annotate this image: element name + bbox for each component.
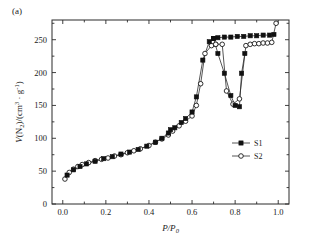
legend-label: S1	[254, 139, 262, 148]
s1-data-point	[233, 103, 237, 107]
y-tick-label: 250	[34, 35, 47, 45]
s1-data-point	[160, 136, 164, 140]
legend-label: S2	[254, 152, 262, 161]
s1-data-point	[127, 150, 131, 154]
y-tick-label: 150	[34, 100, 47, 110]
axis-ticks	[52, 20, 289, 204]
s2-data-point	[203, 51, 208, 56]
s2-data-point	[274, 21, 279, 26]
x-tick-label: 0.0	[57, 207, 68, 217]
s1-data-point	[194, 95, 198, 99]
s1-data-point	[211, 36, 215, 40]
s1-data-point	[201, 58, 205, 62]
s1-data-point	[207, 40, 211, 44]
isotherm-chart: 0.00.20.40.60.81.0050100150200250 P/P0V(…	[0, 0, 317, 241]
x-tick-label: 0.8	[230, 207, 241, 217]
s2-data-point	[248, 42, 253, 47]
s1-data-point	[65, 173, 69, 177]
s2-data-point	[132, 148, 137, 153]
s1-data-point	[71, 168, 75, 172]
plot-frame	[52, 20, 289, 204]
s1-data-point	[255, 34, 259, 38]
s1-data-point	[235, 34, 239, 38]
s1-data-point	[229, 93, 233, 97]
s1-data-point	[242, 34, 246, 38]
s1-data-point	[240, 71, 244, 75]
s1-data-point	[84, 162, 88, 166]
s2-data-point	[265, 41, 270, 46]
data-series	[63, 21, 279, 181]
s1-data-point	[173, 126, 177, 130]
s1-data-point	[168, 128, 172, 132]
s1-data-point	[261, 33, 265, 37]
s1-data-point	[216, 51, 220, 55]
x-tick-label: 0.6	[187, 207, 198, 217]
s1-data-point	[145, 144, 149, 148]
s2-data-point	[224, 89, 229, 94]
y-axis-title: V(N2)/(cm3 · g-1)	[13, 81, 25, 142]
y-tick-label: 50	[39, 166, 48, 176]
s2-data-point	[106, 156, 111, 161]
s1-data-point	[268, 33, 272, 37]
s2-data-point	[269, 40, 274, 45]
plot-border	[52, 20, 289, 204]
y-tick-label: 100	[34, 133, 47, 143]
x-tick-label: 1.0	[273, 207, 284, 217]
s1-data-point	[248, 34, 252, 38]
s1-data-point	[190, 110, 194, 114]
s1-data-point	[153, 140, 157, 144]
x-axis-title: P/P0	[161, 223, 180, 234]
s1-data-point	[183, 116, 187, 120]
s1-data-point	[119, 152, 123, 156]
s1-adsorption-line	[67, 38, 214, 175]
s1-data-point	[237, 105, 241, 109]
s1-data-point	[102, 157, 106, 161]
figure-panel: (a) 0.00.20.40.60.81.0050100150200250 P/…	[0, 0, 317, 241]
s2-data-point	[220, 42, 225, 47]
axis-tick-labels: 0.00.20.40.60.81.0050100150200250	[34, 35, 283, 217]
s1-data-point	[179, 120, 183, 124]
legend-entry-s1: S1	[232, 139, 262, 148]
s1-data-point	[78, 164, 82, 168]
s1-data-point	[222, 71, 226, 75]
y-tick-label: 0	[43, 199, 47, 209]
s2-data-point	[198, 81, 203, 86]
chart-legend: S1S2	[232, 139, 262, 161]
s2-data-point	[213, 42, 218, 47]
s1-data-point	[229, 35, 233, 39]
s1-data-point	[216, 36, 220, 40]
s1-data-point	[222, 35, 226, 39]
s1-data-point	[272, 32, 276, 36]
x-tick-label: 0.4	[144, 207, 155, 217]
s1-data-point	[243, 51, 247, 55]
s2-data-point	[194, 103, 199, 108]
legend-marker-open-circle	[239, 154, 244, 159]
s1-data-point	[93, 159, 97, 163]
legend-entry-s2: S2	[232, 152, 262, 161]
x-tick-label: 0.2	[101, 207, 112, 217]
y-tick-label: 200	[34, 68, 47, 78]
s1-data-point	[136, 147, 140, 151]
s2-data-point	[257, 41, 262, 46]
s1-data-point	[110, 155, 114, 159]
s2-data-point	[237, 97, 242, 102]
legend-marker-filled-square	[239, 141, 243, 145]
